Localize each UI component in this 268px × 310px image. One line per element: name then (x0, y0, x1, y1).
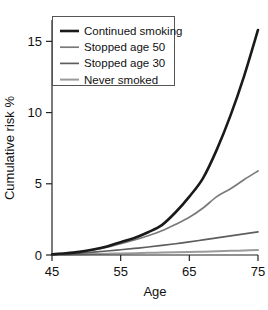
y-tick-label: 0 (35, 248, 42, 263)
y-tick-label: 15 (28, 34, 42, 49)
x-tick-label: 55 (113, 264, 127, 279)
x-tick-label: 75 (251, 264, 265, 279)
y-tick-label: 10 (28, 105, 42, 120)
y-axis-title: Cumulative risk % (2, 96, 17, 200)
y-tick-label: 5 (35, 176, 42, 191)
legend-label: Continued smoking (84, 25, 182, 37)
cumulative-risk-line-chart: 051015 45556575 Age Cumulative risk % Co… (0, 0, 268, 310)
legend-label: Never smoked (84, 74, 158, 86)
chart-legend[interactable]: Continued smokingStopped age 50Stopped a… (53, 17, 183, 86)
legend-label: Stopped age 30 (84, 57, 165, 69)
legend-label: Stopped age 50 (84, 41, 165, 53)
chart-figure: 051015 45556575 Age Cumulative risk % Co… (0, 0, 268, 310)
x-tick-label: 45 (45, 264, 59, 279)
x-axis-title: Age (143, 284, 166, 299)
x-tick-label: 65 (182, 264, 196, 279)
x-tick-layer: 45556575 (45, 255, 265, 279)
y-tick-layer: 051015 (28, 34, 52, 263)
series-line-stopped-age-50 (52, 171, 258, 254)
